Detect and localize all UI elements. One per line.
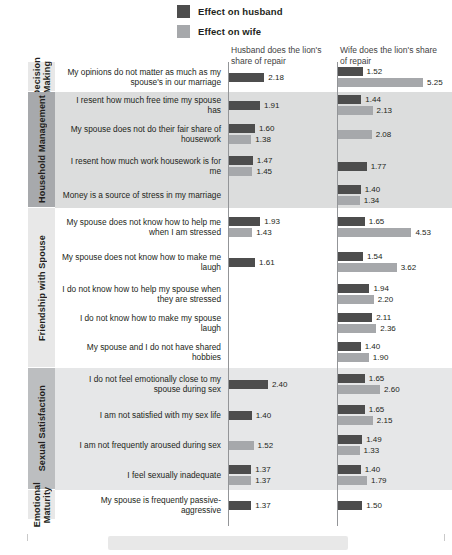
row-shading xyxy=(228,118,338,150)
bar-wife xyxy=(229,228,252,237)
category-band-household-management: Household Management xyxy=(28,92,55,207)
bar-value-label: 1.44 xyxy=(365,95,381,104)
bar-wife xyxy=(338,476,367,485)
bar-husband xyxy=(229,124,255,133)
bar-husband xyxy=(229,217,260,226)
bar-value-label: 1.43 xyxy=(256,228,272,237)
statement-label: My spouse does not do their fair share o… xyxy=(55,118,228,150)
statement-label: My spouse is frequently passive-aggressi… xyxy=(55,490,228,520)
row-shading xyxy=(228,278,338,310)
statement-label-column: My opinions do not matter as much as my … xyxy=(55,62,228,520)
bar-husband xyxy=(338,185,361,194)
bar-value-label: 1.40 xyxy=(256,411,272,420)
legend-item-husband: Effect on husband xyxy=(177,3,283,20)
bar-value-label: 2.08 xyxy=(376,130,392,139)
category-band-sexual-satisfaction: Sexual Satisfaction xyxy=(28,368,55,489)
bar-value-label: 2.60 xyxy=(384,385,400,394)
statement-label: My spouse and I do not have shared hobbi… xyxy=(55,336,228,368)
category-label: Friendship with Spouse xyxy=(37,235,47,341)
bar-value-label: 1.65 xyxy=(369,405,385,414)
bar-wife xyxy=(338,385,380,394)
statement-label: Money is a source of stress in my marria… xyxy=(55,182,228,208)
bar-husband xyxy=(338,284,369,293)
bar-husband xyxy=(229,258,255,267)
row-shading xyxy=(228,150,338,182)
bar-value-label: 1.38 xyxy=(255,135,271,144)
bar-husband xyxy=(338,162,367,171)
category-label: Emotional Maturity xyxy=(32,482,52,527)
statement-label: I do not feel emotionally close to my sp… xyxy=(55,368,228,400)
bar-husband xyxy=(338,313,372,322)
bar-wife xyxy=(338,446,360,455)
bar-wife xyxy=(338,295,374,304)
bar-value-label: 1.40 xyxy=(365,465,381,474)
bar-wife xyxy=(338,353,369,362)
bar-husband xyxy=(338,374,365,383)
bar-value-label: 1.61 xyxy=(259,258,275,267)
bar-value-label: 1.79 xyxy=(371,476,387,485)
category-label: Household Management xyxy=(37,95,47,203)
bar-husband xyxy=(229,156,253,165)
legend-swatch-husband xyxy=(177,5,190,18)
bar-wife xyxy=(338,228,411,237)
bar-value-label: 1.50 xyxy=(366,501,382,510)
row-shading xyxy=(228,182,338,208)
statement-label: I resent how much free time my spouse ha… xyxy=(55,92,228,118)
row-shading xyxy=(337,246,452,278)
bar-value-label: 1.93 xyxy=(264,217,280,226)
bar-value-label: 1.54 xyxy=(367,252,383,261)
bar-value-label: 5.25 xyxy=(427,78,443,87)
bar-value-label: 3.62 xyxy=(401,263,417,272)
category-band-friendship-with-spouse: Friendship with Spouse xyxy=(28,208,55,367)
bar-value-label: 1.40 xyxy=(365,342,381,351)
bar-husband xyxy=(229,501,251,510)
bar-value-label: 2.40 xyxy=(272,380,288,389)
statement-label: I do not know how to make my spouse laug… xyxy=(55,310,228,336)
bottom-decoration xyxy=(108,536,348,550)
bar-husband xyxy=(338,217,365,226)
statement-label: I am not frequently aroused during sex xyxy=(55,430,228,460)
panel-wife-share: 1.521.441.771.401.651.541.942.111.401.65… xyxy=(337,62,452,520)
bar-value-label: 2.36 xyxy=(380,324,396,333)
bar-value-label: 1.60 xyxy=(259,124,275,133)
bar-husband xyxy=(338,501,362,510)
bar-wife xyxy=(338,78,423,87)
bar-value-label: 1.37 xyxy=(255,476,271,485)
bar-husband xyxy=(229,380,268,389)
bar-value-label: 2.20 xyxy=(378,295,394,304)
row-shading xyxy=(228,208,338,246)
bar-wife xyxy=(229,441,254,450)
bar-husband xyxy=(338,405,365,414)
statement-label: I feel sexually inadequate xyxy=(55,460,228,490)
bar-value-label: 1.91 xyxy=(264,101,280,110)
tick-left xyxy=(27,534,28,541)
bar-wife xyxy=(338,324,376,333)
bar-wife xyxy=(338,106,373,115)
statement-label: I resent how much work housework is for … xyxy=(55,150,228,182)
row-shading xyxy=(228,336,338,368)
bar-husband xyxy=(229,411,252,420)
legend-item-wife: Effect on wife xyxy=(177,23,283,40)
bar-value-label: 1.33 xyxy=(364,446,380,455)
category-band-decision-making: Decision Making xyxy=(28,62,55,91)
statement-label: My opinions do not matter as much as my … xyxy=(55,62,228,92)
bar-value-label: 4.53 xyxy=(415,228,431,237)
bar-value-label: 2.15 xyxy=(377,416,393,425)
bar-value-label: 1.47 xyxy=(257,156,273,165)
statement-label: My spouse does not know how to help me w… xyxy=(55,208,228,246)
bar-husband xyxy=(338,67,363,76)
panel-husband-share: 2.181.911.601.471.931.612.401.401.371.37… xyxy=(228,62,338,520)
statement-label: My spouse does not know how to make me l… xyxy=(55,246,228,278)
bar-husband xyxy=(229,73,264,82)
bar-value-label: 1.65 xyxy=(369,374,385,383)
bar-husband xyxy=(338,252,363,261)
row-shading xyxy=(337,368,452,400)
bar-value-label: 1.94 xyxy=(373,284,389,293)
bar-value-label: 1.90 xyxy=(373,353,389,362)
bar-wife xyxy=(338,196,360,205)
bar-value-label: 1.34 xyxy=(364,196,380,205)
bar-value-label: 2.13 xyxy=(377,106,393,115)
legend-label-husband: Effect on husband xyxy=(198,6,283,17)
legend: Effect on husband Effect on wife xyxy=(177,3,283,43)
bar-wife xyxy=(229,476,251,485)
